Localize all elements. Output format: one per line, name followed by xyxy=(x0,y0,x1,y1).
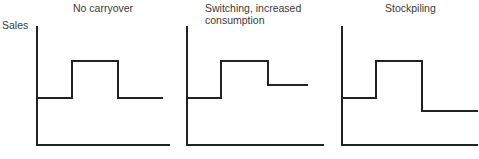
y-axis-label: Sales xyxy=(2,19,28,31)
panel-title-switching-line2: consumption xyxy=(205,14,265,26)
sales-line-panel-1 xyxy=(37,61,163,98)
axes-panel-3 xyxy=(342,26,478,145)
sales-line-panel-3 xyxy=(342,61,478,111)
panel-title-switching-line1: Switching, increased xyxy=(205,2,301,14)
panel-title-no-carryover: No carryover xyxy=(73,2,133,14)
axes-panel-1 xyxy=(37,26,170,145)
sales-line-panel-2 xyxy=(187,61,308,98)
panel-title-stockpiling: Stockpiling xyxy=(385,2,436,14)
